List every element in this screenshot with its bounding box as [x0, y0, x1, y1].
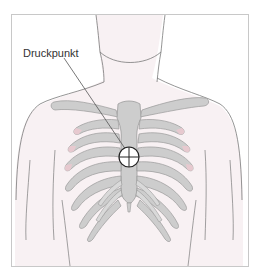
xiphoid-process [127, 203, 131, 212]
chest-anatomy-illustration [0, 0, 258, 276]
compression-point-label: Druckpunkt [23, 47, 79, 59]
compression-point-marker [119, 147, 139, 167]
